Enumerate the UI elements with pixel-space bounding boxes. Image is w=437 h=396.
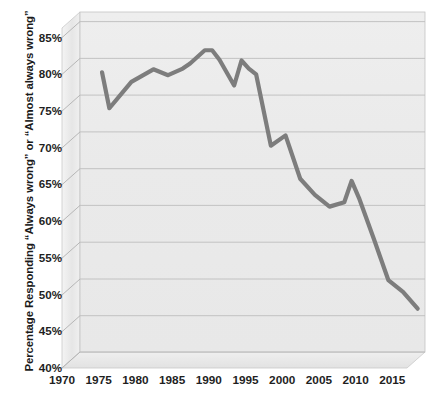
x-tick-label-2015: 2015: [369, 374, 415, 387]
x-axis-tick-labels: 1970197519801985199019952000200520102015: [0, 0, 437, 396]
line-chart: Percentage Responding “Always wrong” or …: [0, 0, 437, 396]
